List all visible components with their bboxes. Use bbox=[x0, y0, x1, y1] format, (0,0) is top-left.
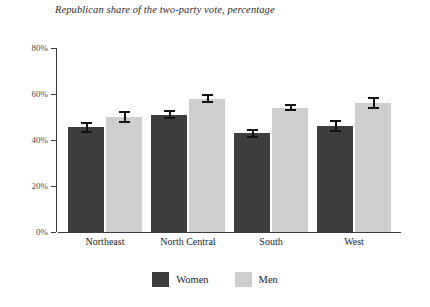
bar-group bbox=[234, 48, 308, 232]
legend-label: Women bbox=[176, 274, 208, 285]
error-bar bbox=[164, 110, 175, 119]
y-axis-tick bbox=[51, 94, 56, 95]
bar-women-south bbox=[234, 133, 270, 232]
y-axis-tick-label: 0% bbox=[14, 227, 48, 237]
error-bar bbox=[368, 97, 379, 109]
bar-men-north-central bbox=[189, 99, 225, 232]
bar-women-northeast bbox=[68, 127, 104, 232]
y-axis-tick bbox=[51, 140, 56, 141]
legend-item-women: Women bbox=[152, 272, 208, 287]
bar-women-north-central bbox=[151, 115, 187, 232]
group-bracket bbox=[141, 232, 235, 233]
plot-area bbox=[56, 48, 424, 232]
error-bar bbox=[202, 94, 213, 103]
chart-legend: WomenMen bbox=[0, 272, 430, 287]
legend-label: Men bbox=[259, 274, 278, 285]
error-bar-cap-bottom bbox=[330, 130, 341, 132]
bar-men-west bbox=[355, 103, 391, 232]
x-axis-label-west: West bbox=[299, 236, 409, 247]
group-bracket bbox=[224, 232, 318, 233]
legend-swatch-women bbox=[152, 272, 169, 287]
y-axis-labels: 0%20%40%60%80% bbox=[12, 48, 48, 232]
y-axis-tick-label: 20% bbox=[14, 181, 48, 191]
error-bar-cap-bottom bbox=[164, 117, 175, 119]
error-bar-cap-bottom bbox=[285, 109, 296, 111]
error-bar-cap-bottom bbox=[247, 136, 258, 138]
bar-group bbox=[151, 48, 225, 232]
error-bar bbox=[285, 104, 296, 111]
y-axis-tick bbox=[51, 186, 56, 187]
y-axis-line bbox=[56, 48, 57, 232]
group-bracket bbox=[58, 232, 152, 233]
chart-title: Republican share of the two-party vote, … bbox=[55, 4, 275, 15]
bar-men-south bbox=[272, 108, 308, 232]
legend-item-men: Men bbox=[235, 272, 278, 287]
bar-group bbox=[68, 48, 142, 232]
y-axis-tick-label: 80% bbox=[14, 43, 48, 53]
y-axis-tick-label: 40% bbox=[14, 135, 48, 145]
bar-chart-figure: Republican share of the two-party vote, … bbox=[0, 0, 430, 307]
bar-group bbox=[317, 48, 391, 232]
bar-men-northeast bbox=[106, 117, 142, 232]
error-bar-cap-bottom bbox=[81, 131, 92, 133]
y-axis-tick bbox=[51, 48, 56, 49]
error-bar bbox=[119, 111, 130, 123]
bar-women-west bbox=[317, 126, 353, 232]
legend-swatch-men bbox=[235, 272, 252, 287]
error-bar bbox=[330, 120, 341, 132]
error-bar bbox=[81, 122, 92, 134]
error-bar-cap-bottom bbox=[202, 101, 213, 103]
group-bracket bbox=[307, 232, 401, 233]
error-bar-cap-bottom bbox=[368, 107, 379, 109]
error-bar bbox=[247, 129, 258, 138]
y-axis-tick-label: 60% bbox=[14, 89, 48, 99]
error-bar-cap-bottom bbox=[119, 121, 130, 123]
y-axis-tick bbox=[51, 232, 56, 233]
